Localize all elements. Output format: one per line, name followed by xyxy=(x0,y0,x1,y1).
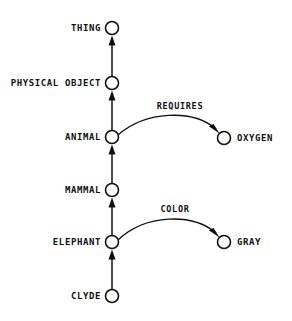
arrow-head-icon xyxy=(109,145,116,155)
node-label-physical-object: PHYSICAL OBJECT xyxy=(11,78,101,88)
node-circle-animal[interactable] xyxy=(106,131,119,144)
edge-arc xyxy=(119,219,216,240)
edge-elephant-mammal xyxy=(109,198,116,236)
edge-animal-physical xyxy=(109,91,116,131)
node-label-mammal: MAMMAL xyxy=(65,185,101,195)
node-circle-oxygen[interactable] xyxy=(218,132,231,145)
node-circle-elephant[interactable] xyxy=(106,236,119,249)
node-circle-gray[interactable] xyxy=(218,236,231,249)
node-label-gray: GRAY xyxy=(237,237,261,247)
node-label-elephant: ELEPHANT xyxy=(53,237,101,247)
arrow-head-icon xyxy=(109,36,116,46)
node-circle-clyde[interactable] xyxy=(106,290,119,303)
edge-animal-oxygen xyxy=(119,115,220,134)
arrow-head-icon xyxy=(109,198,116,208)
diagram-canvas: THING PHYSICAL OBJECT ANIMAL MAMMAL ELEP… xyxy=(0,0,292,321)
edge-clyde-elephant xyxy=(109,250,116,290)
edge-physical-thing xyxy=(109,36,116,77)
node-label-animal: ANIMAL xyxy=(65,132,101,142)
edge-label-color: COLOR xyxy=(160,204,189,214)
node-circle-physical[interactable] xyxy=(106,77,119,90)
edge-mammal-animal xyxy=(109,145,116,184)
edge-label-requires: REQUIRES xyxy=(157,101,204,111)
edge-elephant-gray xyxy=(119,219,220,240)
node-circle-thing[interactable] xyxy=(106,22,119,35)
node-label-thing: THING xyxy=(71,23,101,33)
node-label-oxygen: OXYGEN xyxy=(237,133,273,143)
semantic-network-diagram: THING PHYSICAL OBJECT ANIMAL MAMMAL ELEP… xyxy=(0,0,292,321)
node-label-clyde: CLYDE xyxy=(71,291,101,301)
arrow-head-icon xyxy=(109,250,116,260)
edge-arc xyxy=(119,115,216,134)
arrow-head-icon xyxy=(109,91,116,101)
node-circle-mammal[interactable] xyxy=(106,184,119,197)
